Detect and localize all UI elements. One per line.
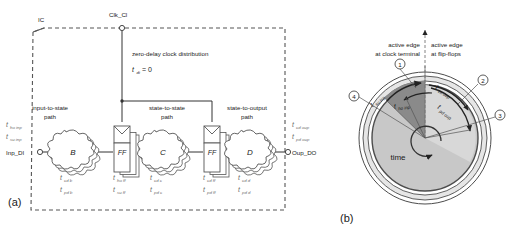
svg-text:cd ff: cd ff xyxy=(207,178,216,183)
svg-text:active edge: active edge xyxy=(431,41,463,48)
panel-a-caption: (a) xyxy=(8,196,21,208)
input-timing-labels: tho inp tsu inp xyxy=(6,121,23,142)
svg-text:cd oup: cd oup xyxy=(296,125,310,130)
output-terminal-label: Oup_DO xyxy=(292,149,317,156)
svg-text:di: di xyxy=(137,70,141,75)
register-ff1: FF xyxy=(114,126,139,177)
header-active-edge-clock: active edge at clock terminal xyxy=(375,41,420,57)
timing-labels-c: tcd c tpd c xyxy=(150,174,163,195)
output-terminal-node xyxy=(285,149,290,154)
time-label: time xyxy=(390,153,406,162)
svg-text:t: t xyxy=(238,174,241,181)
svg-text:pd d: pd d xyxy=(241,190,251,195)
block-label-d: D xyxy=(247,148,253,157)
timing-labels-b: tcd b tpd b xyxy=(60,174,73,195)
path-heading-input-to-state: input-to-state path xyxy=(32,104,69,120)
svg-text:t: t xyxy=(60,174,63,181)
timing-labels-ff1: tho ff tsu ff xyxy=(113,174,126,195)
panel-b: active edge at clock terminal active edg… xyxy=(340,30,505,224)
svg-text:t: t xyxy=(6,133,9,140)
input-terminal-node xyxy=(37,149,42,154)
svg-text:1: 1 xyxy=(398,61,402,68)
svg-text:t: t xyxy=(150,186,153,193)
svg-text:t: t xyxy=(292,133,295,140)
timing-labels-ff2: tcd ff tpd ff xyxy=(203,174,216,195)
svg-text:active edge: active edge xyxy=(388,41,420,48)
svg-text:pd oup: pd oup xyxy=(295,137,310,142)
svg-text:path: path xyxy=(44,113,57,120)
clock-terminal-label: Clk_Cl xyxy=(109,11,127,18)
svg-text:state-to-state: state-to-state xyxy=(149,104,186,111)
svg-text:t: t xyxy=(132,66,135,73)
svg-text:pd c: pd c xyxy=(153,190,163,195)
svg-text:cd b: cd b xyxy=(64,178,73,183)
svg-text:input-to-state: input-to-state xyxy=(32,104,69,111)
timing-labels-d: tcd d tpd d xyxy=(238,174,251,195)
block-label-ff2: FF xyxy=(208,149,217,156)
input-terminal-label: Inp_DI xyxy=(6,149,25,156)
callout-2: 2 xyxy=(478,75,488,85)
output-timing-labels: tcd oup tpd oup xyxy=(292,121,310,142)
logic-cloud-b: B xyxy=(47,130,100,175)
block-label-c: C xyxy=(160,148,166,157)
svg-text:path: path xyxy=(241,113,254,120)
logic-cloud-c: C xyxy=(137,130,190,175)
svg-text:= 0: = 0 xyxy=(142,66,152,73)
block-label-ff1: FF xyxy=(118,149,127,156)
svg-text:t: t xyxy=(203,174,206,181)
svg-text:at flip-flops: at flip-flops xyxy=(431,50,461,57)
svg-text:4: 4 xyxy=(352,93,356,100)
svg-text:pd b: pd b xyxy=(63,190,73,195)
svg-text:ho ff: ho ff xyxy=(117,178,126,183)
svg-text:cd c: cd c xyxy=(154,178,163,183)
svg-text:su inp: su inp xyxy=(10,137,22,142)
header-active-edge-ff: active edge at flip-flops xyxy=(431,41,463,57)
svg-text:t: t xyxy=(150,174,153,181)
block-label-b: B xyxy=(70,148,76,157)
clock-terminal-node xyxy=(119,25,124,30)
svg-text:ho inp: ho inp xyxy=(10,125,23,130)
clock-distribution-note: zero-delay clock distribution xyxy=(132,50,209,57)
svg-text:t: t xyxy=(292,121,295,128)
svg-text:3: 3 xyxy=(498,112,502,119)
svg-text:state-to-output: state-to-output xyxy=(227,104,267,111)
path-heading-state-to-state: state-to-state path xyxy=(149,104,186,120)
clock-delay-expression: t di = 0 xyxy=(132,66,152,75)
svg-text:path: path xyxy=(161,113,174,120)
callout-1: 1 xyxy=(395,59,405,69)
svg-text:t: t xyxy=(60,186,63,193)
svg-text:su ff: su ff xyxy=(117,190,126,195)
logic-cloud-d: D xyxy=(224,130,277,175)
figure-root: IC Clk_Cl zero-delay clock distribution … xyxy=(0,0,517,232)
clock-junction-dot xyxy=(120,99,123,102)
svg-text:t: t xyxy=(113,186,116,193)
svg-text:cd d: cd d xyxy=(242,178,251,183)
panel-a: IC Clk_Cl zero-delay clock distribution … xyxy=(6,11,317,210)
svg-text:t: t xyxy=(6,121,9,128)
axis-arrowhead xyxy=(422,30,427,35)
svg-text:pd ff: pd ff xyxy=(206,190,216,195)
svg-text:2: 2 xyxy=(481,77,485,84)
svg-text:at clock terminal: at clock terminal xyxy=(375,50,420,57)
callout-4: 4 xyxy=(349,91,359,101)
ic-label: IC xyxy=(38,16,45,23)
svg-text:t: t xyxy=(238,186,241,193)
path-heading-state-to-output: state-to-output path xyxy=(227,104,267,120)
svg-text:t: t xyxy=(113,174,116,181)
panel-b-caption: (b) xyxy=(340,212,353,224)
callout-3: 3 xyxy=(495,110,505,120)
svg-text:t: t xyxy=(203,186,206,193)
